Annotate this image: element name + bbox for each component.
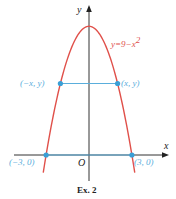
point-neg3-0 bbox=[44, 152, 49, 157]
y-axis-label: y bbox=[76, 4, 82, 15]
figure-caption: Ex. 2 bbox=[77, 185, 97, 195]
y-axis-arrow-icon bbox=[86, 5, 92, 12]
equation-exponent: 2 bbox=[136, 35, 141, 45]
x-axis-arrow-icon bbox=[162, 152, 169, 158]
parabola-diagram: y x O y=9−x2 (−x, y) (x, y) (−3, 0) (3, … bbox=[0, 0, 176, 199]
x-axis-label: x bbox=[163, 140, 169, 151]
equation-text: y=9−x bbox=[110, 39, 136, 49]
label-3-0: (3, 0) bbox=[134, 157, 154, 167]
label-neg-x-y: (−x, y) bbox=[20, 78, 45, 88]
point-x-y bbox=[115, 81, 120, 86]
label-neg3-0: (−3, 0) bbox=[9, 157, 35, 167]
equation-label: y=9−x2 bbox=[110, 35, 141, 49]
label-x-y: (x, y) bbox=[121, 78, 139, 88]
origin-label: O bbox=[78, 157, 85, 168]
point-neg-x-y bbox=[58, 81, 63, 86]
